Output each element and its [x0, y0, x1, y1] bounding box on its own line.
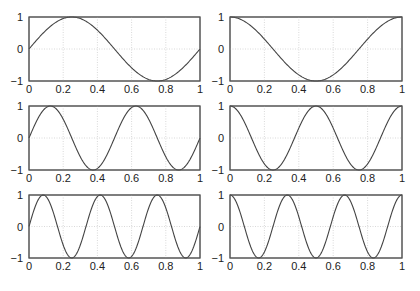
x-tick-label: 0.6: [124, 83, 139, 95]
x-tick-label: 0.6: [326, 83, 341, 95]
x-tick-label: 0: [227, 83, 233, 95]
x-tick-label: 0: [26, 83, 32, 95]
y-tick-label: 1: [218, 11, 224, 23]
y-tick-label: 0: [17, 43, 23, 55]
x-tick-label: 0.4: [90, 172, 105, 184]
y-tick-label: 1: [218, 189, 224, 201]
y-tick-label: 1: [218, 100, 224, 112]
x-tick-label: 0: [26, 260, 32, 272]
y-tick-label: −1: [10, 252, 23, 264]
y-tick-label: −1: [211, 75, 224, 87]
x-tick-label: 1: [197, 260, 203, 272]
x-tick-label: 0.8: [158, 260, 173, 272]
x-tick-label: 0.8: [360, 83, 375, 95]
subplot-figure: 00.20.40.60.8110−100.20.40.60.8110−100.2…: [0, 0, 420, 291]
subplot-3: 00.20.40.60.8110−1: [10, 100, 203, 184]
y-tick-label: 0: [17, 221, 23, 233]
x-tick-label: 0.6: [124, 172, 139, 184]
x-tick-label: 1: [399, 83, 405, 95]
x-tick-label: 0.6: [326, 172, 341, 184]
y-tick-label: 1: [17, 11, 23, 23]
x-tick-label: 1: [399, 260, 405, 272]
x-tick-label: 0.2: [257, 83, 272, 95]
y-tick-label: 0: [17, 132, 23, 144]
x-tick-label: 1: [197, 172, 203, 184]
y-tick-label: 1: [17, 100, 23, 112]
x-tick-label: 0.4: [291, 83, 306, 95]
subplot-1: 00.20.40.60.8110−1: [10, 11, 203, 95]
x-tick-label: 0.8: [360, 172, 375, 184]
x-tick-label: 0.4: [291, 260, 306, 272]
y-tick-label: 0: [218, 221, 224, 233]
x-tick-label: 0.4: [90, 83, 105, 95]
x-tick-label: 0.4: [90, 260, 105, 272]
x-tick-label: 0.2: [257, 172, 272, 184]
x-tick-label: 1: [399, 172, 405, 184]
x-tick-label: 0.6: [124, 260, 139, 272]
x-tick-label: 0.8: [158, 83, 173, 95]
x-tick-label: 0.2: [56, 260, 71, 272]
y-tick-label: 0: [218, 132, 224, 144]
y-tick-label: 1: [17, 189, 23, 201]
y-tick-label: −1: [211, 164, 224, 176]
x-tick-label: 0.6: [326, 260, 341, 272]
x-tick-label: 0.2: [257, 260, 272, 272]
subplot-5: 00.20.40.60.8110−1: [10, 189, 203, 272]
subplot-6: 00.20.40.60.8110−1: [211, 189, 405, 272]
x-tick-label: 0.8: [360, 260, 375, 272]
y-tick-label: −1: [211, 252, 224, 264]
x-tick-label: 0: [227, 260, 233, 272]
y-tick-label: −1: [10, 75, 23, 87]
subplot-2: 00.20.40.60.8110−1: [211, 11, 405, 95]
x-tick-label: 0.8: [158, 172, 173, 184]
x-tick-label: 0: [26, 172, 32, 184]
x-tick-label: 0.2: [56, 172, 71, 184]
x-tick-label: 0: [227, 172, 233, 184]
x-tick-label: 0.2: [56, 83, 71, 95]
x-tick-label: 1: [197, 83, 203, 95]
y-tick-label: 0: [218, 43, 224, 55]
x-tick-label: 0.4: [291, 172, 306, 184]
y-tick-label: −1: [10, 164, 23, 176]
subplot-4: 00.20.40.60.8110−1: [211, 100, 405, 184]
